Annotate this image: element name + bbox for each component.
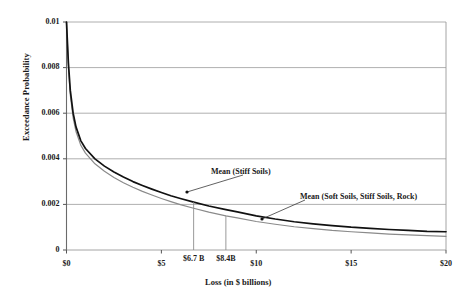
x-tick-label: $0 <box>63 259 71 268</box>
y-tick-label: 0.006 <box>14 108 60 117</box>
x-tick-label: $10 <box>250 259 262 268</box>
marker-value-label: $6.7 B <box>183 254 204 263</box>
annotation-leader-line <box>262 200 305 219</box>
annotation-anchor-dot <box>260 217 263 220</box>
y-axis-title: Exceedance Probability <box>21 27 31 167</box>
y-tick-label: 0.004 <box>14 153 60 162</box>
y-tick-label: 0.01 <box>14 17 60 26</box>
series-annotation-label: Mean (Soft Soils, Stiff Soils, Rock) <box>300 192 417 201</box>
exceedance-probability-chart: Exceedance Probability Loss (in $ billio… <box>0 0 476 299</box>
y-tick-label: 0 <box>14 245 60 254</box>
chart-canvas <box>0 0 476 299</box>
x-tick-label: $5 <box>157 259 165 268</box>
y-tick-label: 0.002 <box>14 199 60 208</box>
annotation-anchor-dot <box>185 190 188 193</box>
annotation-leader-line <box>187 175 243 192</box>
y-tick-label: 0.008 <box>14 62 60 71</box>
x-axis-title: Loss (in $ billions) <box>205 277 271 287</box>
x-tick-label: $15 <box>345 259 357 268</box>
x-tick-label: $20 <box>440 259 452 268</box>
series-annotation-label: Mean (Stiff Soils) <box>211 167 271 176</box>
marker-value-label: $8.4B <box>216 254 235 263</box>
